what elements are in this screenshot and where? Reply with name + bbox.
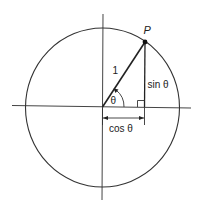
cos-arrow-left-icon (103, 116, 108, 120)
right-angle-marker (138, 101, 145, 108)
angle-arrowhead-icon (114, 89, 119, 94)
label-cosine: cos θ (109, 123, 133, 134)
radius-line (103, 42, 146, 107)
label-point-p: P (144, 24, 152, 36)
label-angle: θ (111, 95, 117, 106)
point-p-marker (143, 40, 148, 45)
x-axis (12, 106, 191, 109)
label-hypotenuse: 1 (113, 65, 119, 76)
sine-line (145, 42, 146, 108)
angle-arc (116, 90, 124, 107)
unit-circle-diagram: P 1 θ sin θ cos θ (0, 0, 199, 209)
label-sine: sin θ (148, 79, 170, 90)
cos-arrow-right-icon (139, 116, 144, 120)
